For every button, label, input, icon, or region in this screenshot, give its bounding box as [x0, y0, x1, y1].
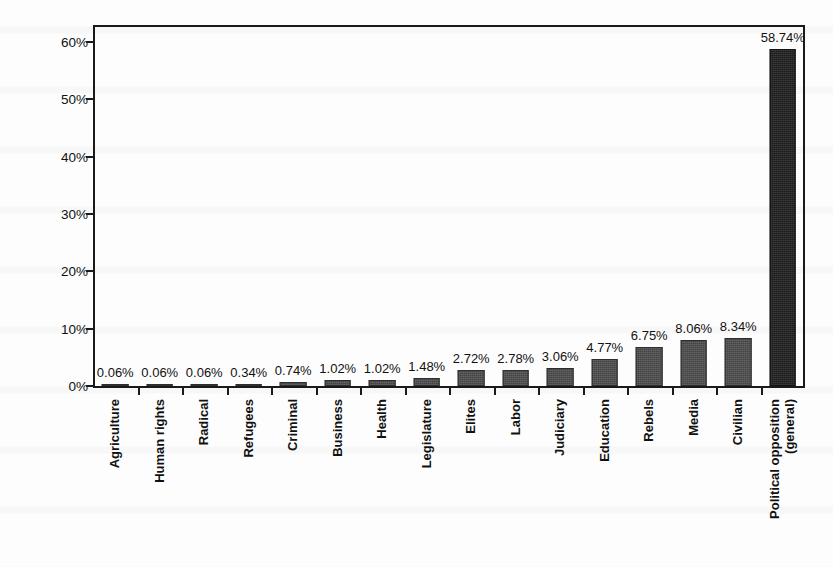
x-axis-tick-mark	[761, 386, 763, 395]
y-axis-tick-label: 50%	[40, 92, 88, 107]
x-axis-tick-mark	[583, 386, 585, 395]
x-axis-category-label: Human rights	[138, 399, 183, 564]
y-axis-tick-mark	[86, 385, 95, 387]
category-label-text: Health	[374, 399, 389, 564]
category-label-line: Political opposition	[767, 399, 782, 564]
x-axis-category-label: Media	[672, 399, 717, 564]
y-axis-tick-label: 0%	[40, 379, 88, 394]
category-label-text: Elites	[463, 399, 478, 564]
category-label-text: Labor	[508, 399, 523, 564]
category-label-text: Education	[597, 399, 612, 564]
bar-value-label: 3.06%	[542, 349, 579, 364]
x-axis-category-label: Elites	[449, 399, 494, 564]
y-axis-tick-label: 60%	[40, 35, 88, 50]
bar-value-label: 0.06%	[186, 365, 223, 380]
bar-slot: 0.06%	[182, 25, 227, 386]
x-axis-category-label: Judiciary	[538, 399, 583, 564]
bar[interactable]	[280, 382, 307, 386]
bar-value-label: 4.77%	[586, 340, 623, 355]
bar-value-label: 0.34%	[230, 365, 267, 380]
bar-slot: 58.74%	[761, 25, 806, 386]
x-axis-category-labels: AgricultureHuman rightsRadicalRefugeesCr…	[93, 399, 805, 567]
bar-slot: 1.02%	[316, 25, 361, 386]
bar-value-label: 1.02%	[364, 361, 401, 376]
bar-value-label: 0.06%	[97, 365, 134, 380]
bar[interactable]	[502, 370, 529, 386]
y-axis-tick-label: 10%	[40, 321, 88, 336]
x-axis-tick-mark	[405, 386, 407, 395]
x-axis-category-label: Rebels	[627, 399, 672, 564]
bar-slot: 1.02%	[360, 25, 405, 386]
category-label-text: Civilian	[730, 399, 745, 564]
bar[interactable]	[102, 384, 129, 386]
y-axis-tick-mark	[86, 213, 95, 215]
bar-slot: 2.72%	[449, 25, 494, 386]
bar-value-label: 1.48%	[408, 359, 445, 374]
x-axis-tick-mark	[138, 386, 140, 395]
x-axis-tick-mark	[538, 386, 540, 395]
category-label-text: Criminal	[285, 399, 300, 564]
y-axis-tick-mark	[86, 98, 95, 100]
bar[interactable]	[146, 384, 173, 386]
bar-value-label: 1.02%	[319, 361, 356, 376]
x-axis-tick-mark	[360, 386, 362, 395]
bar-slot: 4.77%	[583, 25, 628, 386]
x-axis-category-label: Civilian	[716, 399, 761, 564]
bar[interactable]	[636, 347, 663, 386]
bar-value-label: 0.06%	[141, 365, 178, 380]
x-axis-category-label: Agriculture	[93, 399, 138, 564]
bar-slot: 8.34%	[716, 25, 761, 386]
bar[interactable]	[413, 378, 440, 386]
y-axis-tick-mark	[86, 156, 95, 158]
bar-slot: 1.48%	[405, 25, 450, 386]
bars-layer: 0.06%0.06%0.06%0.34%0.74%1.02%1.02%1.48%…	[93, 25, 805, 386]
bar[interactable]	[324, 380, 351, 386]
bar-slot: 0.06%	[138, 25, 183, 386]
bar[interactable]	[458, 370, 485, 386]
bar-value-label: 58.74%	[761, 30, 805, 45]
x-axis-tick-mark	[672, 386, 674, 395]
category-label-line: (general)	[782, 399, 797, 564]
x-axis-tick-mark	[271, 386, 273, 395]
x-axis-category-label: Political opposition(general)	[761, 399, 806, 564]
category-label-text: Human rights	[152, 399, 167, 564]
category-label-text: Political opposition(general)	[767, 399, 797, 564]
bar[interactable]	[235, 384, 262, 386]
category-label-text: Refugees	[241, 399, 256, 564]
y-axis-tick-mark	[86, 328, 95, 330]
bar-value-label: 2.78%	[497, 351, 534, 366]
bar-slot: 2.78%	[494, 25, 539, 386]
x-axis-tick-mark	[716, 386, 718, 395]
y-axis-tick-label: 20%	[40, 264, 88, 279]
bar[interactable]	[591, 359, 618, 386]
x-axis-category-label: Education	[583, 399, 628, 564]
bar-slot: 8.06%	[672, 25, 717, 386]
bar-slot: 0.34%	[227, 25, 272, 386]
bar[interactable]	[191, 384, 218, 386]
bar[interactable]	[725, 338, 752, 386]
x-axis-category-label: Criminal	[271, 399, 316, 564]
bar-value-label: 0.74%	[275, 363, 312, 378]
bar-slot: 6.75%	[627, 25, 672, 386]
bar-chart-figure: Percentage of total number of records 0.…	[0, 0, 833, 567]
category-label-text: Business	[330, 399, 345, 564]
x-axis-category-label: Business	[316, 399, 361, 564]
x-axis-tick-mark	[494, 386, 496, 395]
category-label-text: Radical	[196, 399, 211, 564]
y-axis-tick-label: 30%	[40, 207, 88, 222]
bar[interactable]	[769, 49, 796, 386]
x-axis-tick-mark	[449, 386, 451, 395]
x-axis-tick-mark	[316, 386, 318, 395]
bar-value-label: 8.34%	[720, 319, 757, 334]
y-axis-tick-mark	[86, 41, 95, 43]
bar-slot: 0.06%	[93, 25, 138, 386]
x-axis-tick-mark	[627, 386, 629, 395]
bar-value-label: 2.72%	[453, 351, 490, 366]
bar[interactable]	[369, 380, 396, 386]
bar[interactable]	[680, 340, 707, 386]
category-label-text: Judiciary	[552, 399, 567, 564]
bar-value-label: 8.06%	[675, 321, 712, 336]
bar[interactable]	[547, 368, 574, 386]
category-label-text: Media	[686, 399, 701, 564]
x-axis-category-label: Legislature	[405, 399, 450, 564]
